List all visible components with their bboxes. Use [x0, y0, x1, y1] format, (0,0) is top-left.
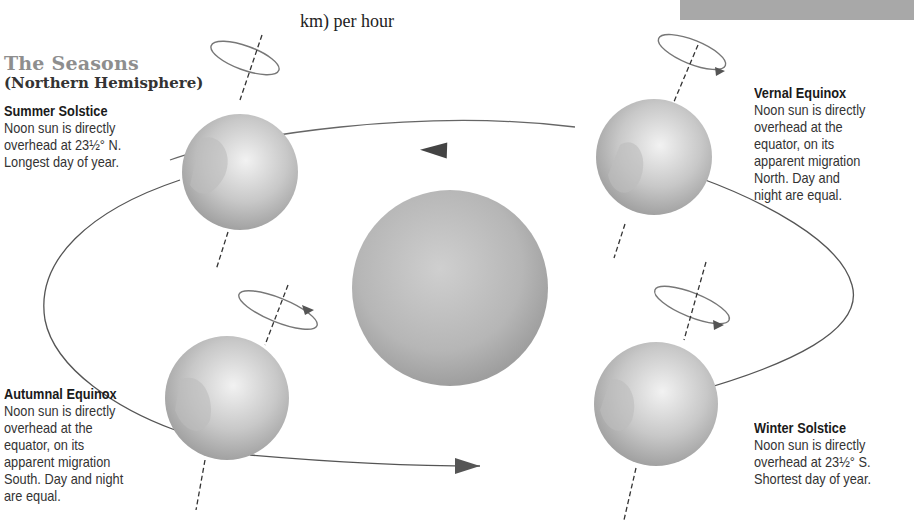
label-vernal-equinox: Vernal Equinox Noon sun is directly over…	[754, 85, 865, 204]
label-line: overhead at the	[754, 119, 865, 136]
label-line: South. Day and night	[4, 471, 123, 488]
label-line: Noon sun is directly	[754, 437, 871, 454]
label-winter-solstice: Winter Solstice Noon sun is directly ove…	[754, 420, 871, 488]
earth-globe-summer	[182, 34, 298, 270]
label-line: night are equal.	[754, 187, 865, 204]
label-line: Shortest day of year.	[754, 471, 871, 488]
label-line: Noon sun is directly	[4, 403, 123, 420]
label-line: North. Day and	[754, 170, 865, 187]
earth-globe-vernal	[596, 27, 730, 258]
label-heading: Autumnal Equinox	[4, 386, 123, 403]
label-line: Noon sun is directly	[754, 102, 865, 119]
label-heading: Winter Solstice	[754, 420, 871, 437]
label-line: overhead at 23½° S.	[754, 454, 871, 471]
label-line: are equal.	[4, 488, 123, 505]
label-autumnal-equinox: Autumnal Equinox Noon sun is directly ov…	[4, 386, 123, 505]
label-line: Longest day of year.	[4, 154, 121, 171]
sun-sphere	[352, 190, 548, 386]
label-line: apparent migration	[4, 454, 123, 471]
orbit-direction-arrow	[420, 142, 448, 159]
label-heading: Summer Solstice	[4, 103, 121, 120]
label-heading: Vernal Equinox	[754, 85, 865, 102]
diagram-subtitle: (Northern Hemisphere)	[4, 74, 203, 92]
earth-globe-winter	[594, 262, 734, 520]
label-summer-solstice: Summer Solstice Noon sun is directly ove…	[4, 103, 121, 171]
earth-globe-autumnal	[165, 283, 321, 510]
label-line: overhead at the	[4, 420, 123, 437]
label-line: equator, on its	[754, 136, 865, 153]
label-line: Noon sun is directly	[4, 120, 121, 137]
label-line: overhead at 23½° N.	[4, 137, 121, 154]
orbit-direction-arrow	[455, 458, 480, 474]
label-line: apparent migration	[754, 153, 865, 170]
label-line: equator, on its	[4, 437, 123, 454]
diagram-title: The Seasons	[4, 52, 139, 74]
